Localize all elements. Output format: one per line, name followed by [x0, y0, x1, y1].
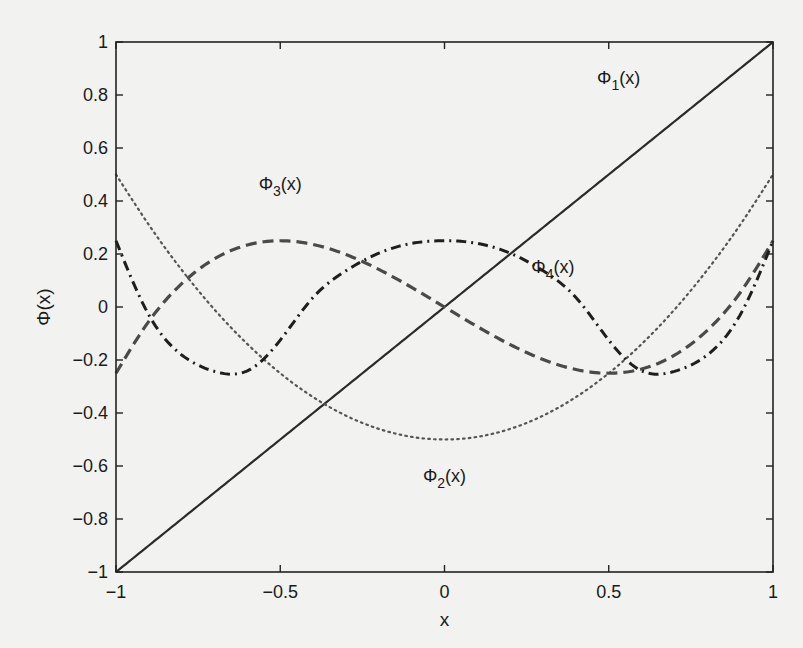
series-label-3: Φ3(x)	[259, 174, 302, 199]
y-tick-label: 0.6	[83, 138, 108, 158]
series-line-3	[116, 241, 773, 374]
x-tick-label: 1	[768, 582, 778, 602]
axis-ticks: −1−0.500.51−1−0.8−0.6−0.4−0.200.20.40.60…	[72, 32, 778, 602]
y-tick-label: −0.6	[72, 456, 108, 476]
series-label-2: Φ2(x)	[423, 466, 466, 491]
y-tick-label: 0.2	[83, 244, 108, 264]
y-tick-label: 0.4	[83, 191, 108, 211]
y-tick-label: −0.8	[72, 509, 108, 529]
chart-figure: Φ1(x)Φ2(x)Φ3(x)Φ4(x) −1−0.500.51−1−0.8−0…	[0, 0, 803, 648]
x-tick-label: −1	[106, 582, 127, 602]
series-label-4: Φ4(x)	[531, 257, 574, 282]
y-tick-label: −0.2	[72, 350, 108, 370]
y-tick-label: 0.8	[83, 85, 108, 105]
y-axis-label: Φ(x)	[33, 288, 54, 325]
series-label-1: Φ1(x)	[597, 68, 640, 93]
y-tick-label: −1	[87, 562, 108, 582]
y-tick-label: 1	[98, 32, 108, 52]
y-tick-label: 0	[98, 297, 108, 317]
x-tick-label: −0.5	[262, 582, 298, 602]
series-layer	[116, 42, 773, 572]
x-tick-label: 0.5	[596, 582, 621, 602]
x-tick-label: 0	[439, 582, 449, 602]
series-labels: Φ1(x)Φ2(x)Φ3(x)Φ4(x)	[259, 68, 641, 491]
y-tick-label: −0.4	[72, 403, 108, 423]
x-axis-label: x	[440, 609, 450, 630]
